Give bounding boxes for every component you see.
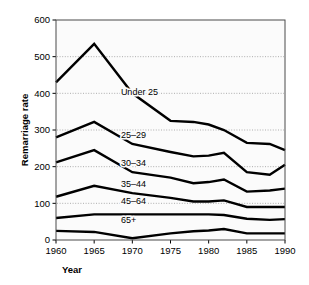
x-tick-label: 1980: [198, 245, 219, 256]
series-label-35-44: 35–44: [121, 179, 146, 189]
series-label-25-29: 25–29: [121, 130, 146, 140]
remarriage-rate-chart: 0100200300400500600 19601965197019751980…: [0, 0, 309, 285]
series-label-under-25: Under 25: [121, 87, 158, 97]
y-tick-label: 400: [34, 88, 50, 99]
y-tick-label: 0: [45, 234, 50, 245]
y-tick-label: 100: [34, 198, 50, 209]
y-tick-label: 200: [34, 161, 50, 172]
x-axis-group: 1960196519701975198019851990: [45, 240, 295, 256]
x-tick-label: 1975: [160, 245, 181, 256]
x-tick-label: 1960: [45, 245, 66, 256]
x-tick-label: 1970: [122, 245, 143, 256]
series-label-30-34: 30–34: [121, 158, 146, 168]
y-tick-label: 300: [34, 124, 50, 135]
x-tick-label: 1985: [236, 245, 257, 256]
y-axis-title: Remarriage rate: [19, 94, 30, 166]
y-tick-label: 500: [34, 51, 50, 62]
y-tick-label: 600: [34, 14, 50, 25]
x-axis-title: Year: [62, 264, 82, 275]
y-axis-group: 0100200300400500600: [34, 14, 56, 245]
x-tick-label: 1990: [274, 245, 295, 256]
series-label-65-: 65+: [121, 215, 136, 225]
x-tick-label: 1965: [84, 245, 105, 256]
series-label-45-64: 45–64: [121, 196, 146, 206]
chart-svg: 0100200300400500600 19601965197019751980…: [0, 0, 309, 285]
